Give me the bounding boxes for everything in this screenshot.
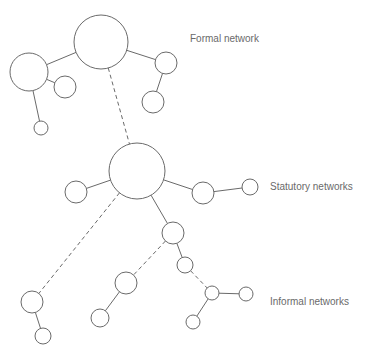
node-informal-left-child <box>35 328 51 344</box>
node-formal-main <box>74 15 128 69</box>
node-formal-right <box>155 52 177 74</box>
edge-formal-main-formal-left <box>47 52 77 64</box>
label-formal-network: Formal network <box>190 33 259 44</box>
edge-informal-hub-informal-hub-down <box>197 299 208 316</box>
edge-statutory-down-2-informal-hub <box>191 271 208 288</box>
node-formal-left <box>10 53 48 91</box>
node-informal-hub-down <box>186 315 200 329</box>
edge-informal-left-informal-left-child <box>35 312 40 328</box>
node-statutory-down-2 <box>177 257 193 273</box>
node-informal-mid-child <box>91 309 109 327</box>
node-formal-right-lower <box>142 91 164 113</box>
edge-formal-main-formal-right <box>127 50 156 59</box>
edge-formal-left-formal-left-child <box>47 79 55 82</box>
node-statutory-main <box>109 143 165 199</box>
node-statutory-left <box>65 181 87 203</box>
edge-statutory-main-statutory-right <box>164 180 193 190</box>
edge-statutory-down-statutory-down-2 <box>177 243 182 257</box>
node-formal-left-lower <box>34 121 48 135</box>
edge-statutory-right-statutory-far-right <box>214 188 242 192</box>
edge-formal-main-statutory-main <box>108 68 129 144</box>
edge-formal-right-formal-right-lower <box>156 73 162 91</box>
edge-statutory-down-informal-mid <box>134 241 166 275</box>
edge-informal-hub-informal-hub-right <box>219 293 239 294</box>
edge-statutory-main-statutory-down <box>151 195 167 223</box>
node-formal-left-child <box>54 76 76 98</box>
node-statutory-right <box>192 182 214 204</box>
edge-informal-mid-informal-mid-child <box>105 292 119 311</box>
edge-statutory-main-statutory-left <box>86 180 110 188</box>
node-informal-hub <box>205 286 219 300</box>
node-statutory-far-right <box>242 179 258 195</box>
label-statutory-networks: Statutory networks <box>270 181 353 192</box>
node-informal-mid <box>115 272 137 294</box>
label-informal-networks: Informal networks <box>270 296 349 307</box>
edge-statutory-main-informal-left <box>39 193 120 294</box>
node-informal-hub-right <box>239 287 253 301</box>
edge-formal-left-formal-left-lower <box>33 91 40 122</box>
node-informal-left <box>21 291 43 313</box>
node-statutory-down <box>162 222 184 244</box>
